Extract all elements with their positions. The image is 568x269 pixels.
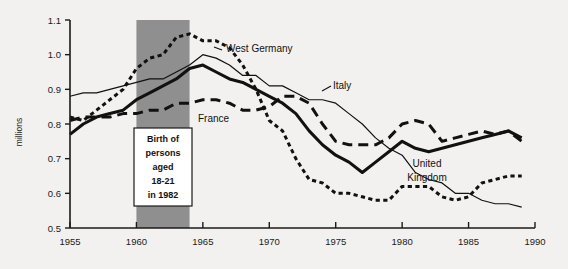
tick-labels: 0.50.60.70.80.91.01.11955196019651970197… [48,15,546,248]
series-label-united-kingdom-line2: Kingdom [407,172,446,183]
y-tick-label: 1.0 [48,49,61,60]
band-callout-box: Birth ofpersonsaged18-21in 1982 [134,128,192,206]
y-tick-label: 0.6 [48,188,61,199]
y-tick-label: 0.5 [48,223,61,234]
chart-canvas: 0.50.60.70.80.91.01.11955196019651970197… [0,0,568,269]
x-tick-label: 1955 [59,236,80,247]
cohort-callout-line: 18-21 [151,176,174,186]
births-line-chart: 0.50.60.70.80.91.01.11955196019651970197… [0,0,568,269]
series-label-united-kingdom: United [413,158,442,169]
series-label-france: France [198,113,230,124]
x-tick-label: 1975 [325,236,346,247]
y-tick-label: 0.7 [48,153,61,164]
west-germany-leader [214,47,222,50]
cohort-callout-line: Birth of [147,134,180,144]
y-tick-label: 1.1 [48,15,61,26]
series-annotations: West Germany Italy France United Kingdom [198,43,447,183]
x-tick-label: 1980 [392,236,413,247]
x-tick-label: 1965 [192,236,213,247]
cohort-callout-line: aged [152,162,173,172]
x-tick-label: 1970 [259,236,280,247]
y-tick-label: 0.9 [48,84,61,95]
x-tick-label: 1960 [126,236,147,247]
y-axis-title: millions [14,118,24,146]
italy-leader [322,86,331,91]
y-tick-label: 0.8 [48,119,61,130]
x-tick-label: 1990 [524,236,545,247]
cohort-callout-line: in 1982 [148,190,179,200]
series-label-italy: Italy [333,80,351,91]
x-tick-label: 1985 [458,236,479,247]
series-label-west-germany: West Germany [226,43,293,54]
cohort-callout-line: persons [145,148,180,158]
